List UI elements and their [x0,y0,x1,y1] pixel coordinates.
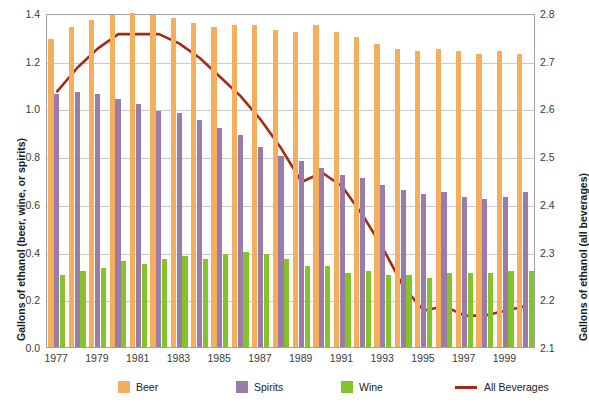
bar-wine [203,259,208,347]
bar-spirits [278,156,283,347]
bar-wine [447,273,452,347]
bar-beer [171,18,176,347]
bar-spirits [75,92,80,347]
y-tick-label-left: 0.2 [6,295,40,305]
y-tick-label-left: 0.4 [6,248,40,258]
y-tick-label-right: 2.1 [540,343,574,353]
bar-wine [121,261,126,347]
legend: BeerSpiritsWineAll Beverages [0,378,585,402]
bar-wine [243,252,248,347]
x-tick-label: 1997 [444,353,484,364]
bar-spirits [482,199,487,347]
y-tick-label-right: 2.2 [540,295,574,305]
y-tick-label-left: 1.2 [6,57,40,67]
bar-wine [488,273,493,347]
y-tick-label-left: 0.0 [6,343,40,353]
x-tick-label: 1989 [281,353,321,364]
bar-spirits [95,94,100,347]
bar-spirits [319,168,324,347]
bar-beer [252,25,257,347]
legend-swatch-all-beverages-icon [455,386,477,389]
bar-beer [313,25,318,347]
y-tick-label-left: 1.4 [6,9,40,19]
bar-wine [468,273,473,347]
x-tick-label: 1993 [362,353,402,364]
bar-beer [211,27,216,347]
legend-item-beer[interactable]: Beer [118,378,158,396]
bar-beer [69,27,74,347]
legend-item-all-beverages[interactable]: All Beverages [455,378,549,396]
bar-spirits [401,190,406,347]
x-tick-label: 1985 [199,353,239,364]
bar-beer [130,13,135,347]
bar-beer [232,25,237,347]
bar-wine [386,275,391,347]
bar-spirits [238,135,243,347]
x-tick-label: 1983 [158,353,198,364]
bar-spirits [258,147,263,347]
bar-spirits [156,111,161,347]
y-tick-label-right: 2.4 [540,200,574,210]
y-tick-label-left: 0.8 [6,152,40,162]
y-axis-title-right: Gallons of ethanol (all beverages) [577,173,589,341]
bar-spirits [360,178,365,347]
bar-wine [101,268,106,347]
plot-area [46,14,535,348]
bar-spirits [217,128,222,347]
legend-label: Spirits [254,381,283,393]
bar-beer [110,15,115,347]
bar-wine [162,259,167,347]
x-tick-label: 1991 [321,353,361,364]
legend-label: Wine [359,381,383,393]
bar-spirits [503,197,508,347]
bar-beer [415,51,420,347]
bar-beer [436,49,441,347]
x-tick-label: 1979 [77,353,117,364]
bar-wine [182,256,187,347]
x-tick-label: 1995 [403,353,443,364]
legend-swatch-beer-icon [118,381,130,393]
legend-swatch-spirits-icon [236,381,248,393]
legend-swatch-wine-icon [341,381,353,393]
x-tick-label: 1977 [36,353,76,364]
bar-wine [345,273,350,347]
bar-beer [476,54,481,347]
bar-wine [508,271,513,347]
x-tick-label: 1999 [484,353,524,364]
bar-beer [48,39,53,347]
bar-wine [264,254,269,347]
bar-wine [60,275,65,347]
legend-item-spirits[interactable]: Spirits [236,378,283,396]
bar-beer [89,20,94,347]
bar-wine [305,266,310,347]
bar-wine [223,254,228,347]
bar-spirits [462,197,467,347]
bar-beer [191,23,196,347]
bar-beer [293,32,298,347]
bar-beer [517,54,522,347]
bar-wine [406,275,411,347]
y-tick-label-right: 2.8 [540,9,574,19]
y-tick-label-right: 2.3 [540,248,574,258]
x-tick-label: 1981 [118,353,158,364]
legend-label: Beer [136,381,158,393]
bar-spirits [441,192,446,347]
y-tick-label-left: 0.6 [6,200,40,210]
bar-beer [374,44,379,347]
y-tick-label-left: 1.0 [6,104,40,114]
bar-spirits [136,104,141,347]
bar-beer [497,51,502,347]
bar-wine [325,266,330,347]
bar-wine [142,264,147,348]
bar-spirits [523,192,528,347]
y-tick-label-right: 2.5 [540,152,574,162]
y-axis-title-left: Gallons of ethanol (beer, wine, or spiri… [15,138,27,341]
bar-spirits [340,175,345,347]
bar-beer [354,37,359,347]
bar-beer [273,30,278,347]
bar-spirits [421,194,426,347]
y-tick-label-right: 2.7 [540,57,574,67]
legend-label: All Beverages [484,381,549,393]
legend-item-wine[interactable]: Wine [341,378,383,396]
